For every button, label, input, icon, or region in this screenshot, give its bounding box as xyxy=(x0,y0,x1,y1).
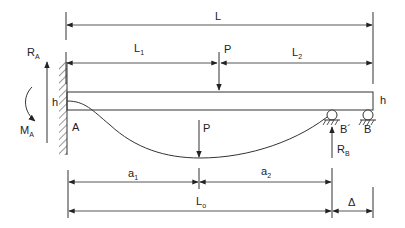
roller-B-prime: B´ xyxy=(323,110,351,135)
moment-MA: MA xyxy=(20,87,35,138)
roller-B: B xyxy=(359,110,376,135)
label-L0: Lo xyxy=(196,195,206,209)
dimension-L0-delta: Lo Δ xyxy=(69,187,373,218)
label-P-top: P xyxy=(224,43,231,55)
label-B: B xyxy=(364,123,371,135)
reaction-RA: RA xyxy=(27,46,47,143)
label-a2: a2 xyxy=(261,165,271,179)
label-MA: MA xyxy=(20,124,34,138)
label-P-bottom: P xyxy=(203,122,210,134)
label-L: L xyxy=(215,10,221,22)
label-L1: L1 xyxy=(134,42,144,56)
beam-diagram: L L1 L2 P h h P RA MA A xyxy=(0,0,405,228)
label-RA: RA xyxy=(27,46,40,60)
label-h-left: h xyxy=(52,96,58,108)
label-RB: RB xyxy=(337,143,350,157)
load-P-top: P xyxy=(219,43,231,90)
label-B-prime: B´ xyxy=(340,123,351,135)
label-h-right: h xyxy=(380,94,386,106)
label-delta: Δ xyxy=(348,196,356,208)
label-L2: L2 xyxy=(292,46,302,60)
beam xyxy=(67,92,373,110)
fixed-wall xyxy=(59,62,67,155)
label-a1: a1 xyxy=(128,167,138,181)
label-A: A xyxy=(72,121,80,133)
dimension-a1-a2: a1 a2 xyxy=(68,165,332,218)
load-P-bottom: P xyxy=(199,120,210,157)
